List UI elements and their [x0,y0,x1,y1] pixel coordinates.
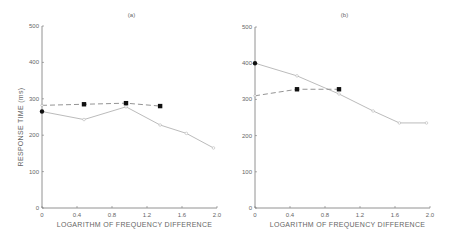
x-tick-label: 0 [253,212,257,218]
open-circle-marker [372,110,375,113]
y-tick-label: 300 [242,96,253,102]
y-tick-label: 400 [29,59,40,65]
filled-square-marker [124,101,128,105]
solid-series-line [255,63,427,123]
filled-square-marker [82,102,86,106]
open-circle-marker [185,132,188,135]
open-circle-marker [398,122,401,125]
x-tick-label: 2.0 [426,212,435,218]
open-circle-marker [425,122,428,125]
filled-circle-marker [40,109,44,113]
x-axis-label: LOGARITHM OF FREQUENCY DIFFERENCE [57,221,213,229]
x-tick-label: 1.2 [356,212,365,218]
x-tick-label: 0.4 [73,212,82,218]
x-axis-label: LOGARITHM OF FREQUENCY DIFFERENCE [270,221,426,229]
y-tick-label: 500 [29,23,40,29]
x-tick-label: 0.8 [108,212,117,218]
panel-a: 010020030040050000.40.81.21.62.0(a)LOGAR… [17,12,222,229]
y-tick-label: 200 [29,132,40,138]
panel-b: 010020030040050000.40.81.21.62.0(b)LOGAR… [242,12,435,229]
x-tick-label: 1.6 [178,212,187,218]
y-tick-label: 100 [29,169,40,175]
x-tick-label: 0.4 [286,212,295,218]
x-tick-label: 1.2 [143,212,152,218]
solid-series-line [42,107,214,148]
y-tick-label: 400 [242,60,253,66]
open-circle-marker [41,104,43,106]
open-circle-marker [125,106,128,109]
y-axis-label: RESPONSE TIME (ms) [17,88,25,167]
figure: 010020030040050000.40.81.21.62.0(a)LOGAR… [0,0,450,245]
filled-square-marker [295,87,299,91]
y-tick-label: 500 [242,24,253,30]
dashed-series-line [42,103,160,106]
x-tick-label: 1.6 [391,212,400,218]
x-tick-label: 2.0 [213,212,222,218]
panel-title: (a) [128,12,135,18]
panel-title: (b) [341,12,348,18]
filled-circle-marker [253,61,257,65]
open-circle-marker [254,95,256,97]
y-tick-label: 100 [242,169,253,175]
filled-square-marker [337,87,341,91]
open-circle-marker [212,147,215,150]
x-tick-label: 0.8 [321,212,330,218]
y-tick-label: 200 [242,133,253,139]
open-circle-marker [83,118,86,121]
y-tick-label: 0 [36,205,40,211]
x-tick-label: 0 [40,212,44,218]
y-tick-label: 0 [249,205,253,211]
open-circle-marker [296,75,299,78]
open-circle-marker [159,124,162,127]
open-circle-marker [338,93,341,96]
filled-square-marker [158,104,162,108]
y-tick-label: 300 [29,96,40,102]
